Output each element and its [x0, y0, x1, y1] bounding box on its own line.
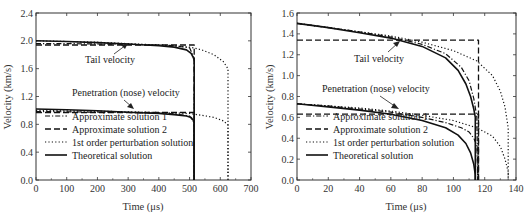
- y-tick-label: 2.0: [21, 35, 34, 46]
- x-tick-label: 100: [446, 183, 461, 194]
- y-tick-label: 1.0: [282, 70, 295, 81]
- x-tick-label: 600: [213, 183, 228, 194]
- left-chart: 01002003004005006007000.00.40.81.21.62.0…: [2, 8, 259, 214]
- y-tick-label: 0.8: [21, 119, 34, 130]
- legend-label: Approximate solution 2: [333, 124, 428, 135]
- y-tick-label: 1.4: [282, 28, 295, 39]
- right-nose-arrowhead-icon: [391, 103, 399, 109]
- y-tick-label: 0.4: [21, 147, 34, 158]
- x-tick-label: 120: [477, 183, 492, 194]
- x-tick-label: 0: [34, 183, 39, 194]
- right-x-axis-title: Time (μs): [385, 201, 427, 213]
- y-tick-label: 0.6: [282, 112, 295, 123]
- y-tick-label: 2.4: [21, 8, 34, 19]
- y-tick-label: 0.4: [282, 133, 295, 144]
- y-tick-label: 0.0: [21, 175, 34, 186]
- right-legend: Approximate solution 1Approximate soluti…: [306, 111, 454, 161]
- x-tick-label: 500: [182, 183, 197, 194]
- y-tick-label: 1.2: [21, 91, 34, 102]
- right-axis-ticks: 0204060801001201400.00.20.40.60.81.01.21…: [282, 8, 524, 195]
- right-chart: 0204060801001201400.00.20.40.60.81.01.21…: [264, 8, 524, 214]
- x-tick-label: 40: [355, 183, 365, 194]
- x-tick-label: 60: [386, 183, 396, 194]
- legend-label: Theoretical solution: [333, 150, 413, 161]
- y-tick-label: 1.2: [282, 49, 295, 60]
- right-tail-velocity-label: Tail velocity: [354, 53, 404, 64]
- y-tick-label: 0.0: [282, 175, 295, 186]
- left-axis-ticks: 01002003004005006007000.00.40.81.21.62.0…: [21, 8, 259, 195]
- y-tick-label: 1.6: [21, 63, 34, 74]
- legend-label: 1st order perturbation solution: [333, 137, 454, 148]
- right-nose-velocity-label: Penetration (nose) velocity: [322, 83, 430, 95]
- legend-label: Approximate solution 1: [72, 111, 167, 122]
- x-tick-label: 200: [90, 183, 105, 194]
- y-tick-label: 0.2: [282, 154, 295, 165]
- legend-label: Approximate solution 2: [72, 124, 167, 135]
- x-tick-label: 100: [59, 183, 74, 194]
- x-tick-label: 400: [151, 183, 166, 194]
- y-tick-label: 1.6: [282, 8, 295, 19]
- left-legend: Approximate solution 1Approximate soluti…: [45, 111, 193, 161]
- x-tick-label: 700: [244, 183, 259, 194]
- y-tick-label: 0.8: [282, 91, 295, 102]
- legend-label: Theoretical solution: [72, 150, 152, 161]
- left-nose-velocity-label: Penetration (nose) velocity: [72, 87, 180, 99]
- figure-canvas: 01002003004005006007000.00.40.81.21.62.0…: [0, 0, 529, 216]
- x-tick-label: 0: [295, 183, 300, 194]
- legend-label: Approximate solution 1: [333, 111, 428, 122]
- x-tick-label: 140: [509, 183, 524, 194]
- left-tail-velocity-label: Tail velocity: [85, 54, 135, 65]
- x-tick-label: 300: [121, 183, 136, 194]
- left-x-axis-title: Time (μs): [122, 201, 164, 213]
- left-y-axis-title: Velocity (km/s): [2, 64, 14, 130]
- x-tick-label: 20: [323, 183, 333, 194]
- legend-label: 1st order perturbation solution: [72, 137, 193, 148]
- right-y-axis-title: Velocity (km/s): [264, 64, 276, 130]
- x-tick-label: 80: [417, 183, 427, 194]
